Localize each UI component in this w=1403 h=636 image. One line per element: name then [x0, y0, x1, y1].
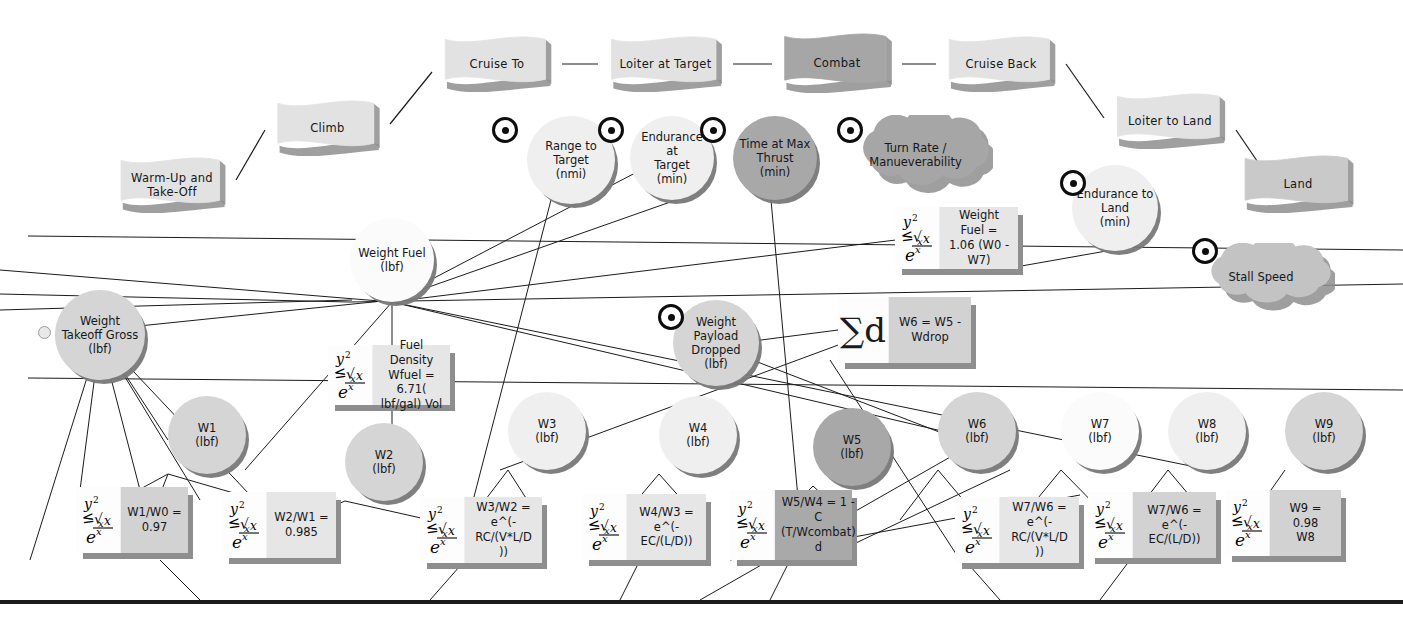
requirement-label: Turn Rate /Manueverability	[859, 141, 971, 170]
node-w6[interactable]: W6(lbf)	[938, 392, 1016, 470]
requirement-target-icon-weight-payload-dropped[interactable]	[658, 304, 684, 330]
formula-icon: y 2 ≤ √ x x e x	[1088, 492, 1133, 558]
svg-text:x: x	[975, 536, 981, 547]
mission-phase-label: Combat	[808, 56, 867, 70]
equation-eq-w7-w6-endurance[interactable]: y 2 ≤ √ x x e x W7/W6 =e^(-EC/(L/D))	[1088, 492, 1216, 558]
mission-phase-cruise-back[interactable]: Cruise Back	[936, 36, 1066, 92]
formula-icon: y 2 ≤ √ x x e x	[955, 497, 1000, 563]
node-w2[interactable]: W2(lbf)	[345, 423, 423, 501]
node-w3[interactable]: W3(lbf)	[508, 392, 586, 470]
mission-phase-combat[interactable]: Combat	[772, 33, 902, 93]
mission-phase-land[interactable]: Land	[1232, 155, 1364, 213]
svg-text:2: 2	[912, 213, 918, 223]
requirement-time-at-max-thrust[interactable]: Time at MaxThrust(min)	[733, 116, 817, 200]
svg-text:x: x	[96, 526, 102, 537]
formula-icon: y 2 ≤ √ x x e x	[420, 497, 465, 563]
equation-eq-weight-fuel[interactable]: y 2 ≤ √ x x e x Weight Fuel =1.06 (W0 -W…	[895, 207, 1018, 269]
equation-eq-w9-w8[interactable]: y 2 ≤ √ x x e x W9 = 0.98W8	[1225, 490, 1341, 556]
mission-phase-warm-up-and-take-off[interactable]: Warm-Up andTake-Off	[108, 157, 236, 213]
requirement-weight-payload-dropped[interactable]: WeightPayloadDropped(lbf)	[673, 300, 759, 386]
svg-text:x: x	[242, 531, 248, 542]
sigma-icon: ∑d	[838, 297, 889, 363]
formula-icon: y 2 ≤ √ x x e x	[76, 487, 121, 553]
equation-text: W7/W6 =e^(-EC/(L/D))	[1133, 492, 1216, 558]
equation-text: W3/W2 =e^(-RC/(V*L/D))	[465, 497, 542, 563]
requirement-label: Stall Speed	[1219, 270, 1304, 284]
node-weight-takeoff-gross[interactable]: WeightTakeoff Gross(lbf)	[55, 290, 145, 380]
svg-text:2: 2	[345, 350, 351, 360]
svg-text:e: e	[1235, 530, 1245, 549]
node-w4[interactable]: W4(lbf)	[659, 396, 737, 474]
node-label: Endurance toLand(min)	[1073, 187, 1158, 229]
svg-text:x: x	[602, 533, 608, 544]
node-w7[interactable]: W7(lbf)	[1061, 392, 1139, 470]
equation-eq-w3-w2[interactable]: y 2 ≤ √ x x e x W3/W2 =e^(-RC/(V*L/D))	[420, 497, 542, 563]
mission-phase-label: Land	[1277, 177, 1318, 191]
equation-text: W6 = W5 -Wdrop	[889, 297, 971, 363]
requirement-target-icon-time-at-max-thrust[interactable]	[700, 117, 726, 143]
equation-eq-w7-w6-range[interactable]: y 2 ≤ √ x x e x W7/W6 =e^(-RC/(V*L/D))	[955, 497, 1079, 563]
svg-text:2: 2	[93, 495, 99, 505]
node-label: WeightPayloadDropped(lbf)	[687, 315, 744, 371]
mission-phase-label: Climb	[304, 121, 350, 135]
svg-text:e: e	[905, 245, 915, 264]
node-label: W6(lbf)	[961, 417, 993, 445]
svg-text:2: 2	[239, 500, 245, 510]
node-weight-fuel[interactable]: Weight Fuel(lbf)	[350, 218, 434, 302]
node-label: Endurance atTarget(min)	[630, 130, 714, 186]
equation-text: W1/W0 =0.97	[121, 487, 188, 553]
svg-text:x: x	[923, 232, 930, 246]
requirement-target-icon-turn-rate-manueverability[interactable]	[837, 117, 863, 143]
equation-eq-w4-w3[interactable]: y 2 ≤ √ x x e x W4/W3 =e^(-EC/(L/D))	[582, 494, 706, 560]
node-label: WeightTakeoff Gross(lbf)	[58, 314, 143, 356]
mission-phase-climb[interactable]: Climb	[265, 100, 390, 156]
svg-text:2: 2	[972, 505, 978, 515]
mission-phase-label: Loiter to Land	[1122, 114, 1218, 128]
requirement-target-icon-range-to-target[interactable]	[492, 117, 518, 143]
equation-eq-fuel-density[interactable]: y 2 ≤ √ x x e x Fuel DensityWfuel = 6.71…	[328, 345, 450, 405]
requirement-turn-rate-manueverability[interactable]: Turn Rate /Manueverability	[848, 115, 983, 195]
equation-text: W2/W1 =0.985	[267, 492, 336, 558]
node-label: W1(lbf)	[191, 421, 223, 449]
node-w9[interactable]: W9(lbf)	[1285, 392, 1363, 470]
equation-eq-w2-w1[interactable]: y 2 ≤ √ x x e x W2/W1 =0.985	[222, 492, 336, 558]
node-label: W2(lbf)	[368, 448, 400, 476]
equation-text: W9 = 0.98W8	[1270, 490, 1341, 556]
equation-eq-w5-w4[interactable]: y 2 ≤ √ x x e x W5/W4 = 1 -C(T/Wcombat)d	[730, 490, 852, 560]
mission-phase-cruise-to[interactable]: Cruise To	[432, 36, 562, 92]
requirement-target-icon-stall-speed[interactable]	[1192, 238, 1218, 264]
svg-text:e: e	[232, 532, 242, 551]
equation-eq-w6-sum[interactable]: ∑dW6 = W5 -Wdrop	[838, 297, 971, 363]
svg-text:x: x	[1245, 529, 1251, 540]
svg-text:2: 2	[437, 505, 443, 515]
formula-icon: y 2 ≤ √ x x e x	[222, 492, 267, 558]
node-w1[interactable]: W1(lbf)	[168, 396, 246, 474]
requirement-target-icon-endurance-at-target[interactable]	[598, 117, 624, 143]
formula-icon: y 2 ≤ √ x x e x	[328, 345, 373, 405]
svg-text:x: x	[750, 531, 756, 542]
equation-text: W5/W4 = 1 -C(T/Wcombat)d	[775, 490, 862, 560]
requirement-target-icon-endurance-to-land[interactable]	[1060, 170, 1086, 196]
node-label: Range toTarget(nmi)	[541, 139, 601, 181]
node-handle-knob[interactable]	[38, 326, 51, 339]
formula-icon: y 2 ≤ √ x x e x	[1225, 490, 1270, 556]
svg-text:2: 2	[599, 502, 605, 512]
node-w8[interactable]: W8(lbf)	[1168, 392, 1246, 470]
node-label: W8(lbf)	[1191, 417, 1223, 445]
node-label: W7(lbf)	[1084, 417, 1116, 445]
svg-text:x: x	[610, 521, 617, 535]
mission-phase-loiter-to-land[interactable]: Loiter to Land	[1104, 93, 1236, 149]
node-w5[interactable]: W5(lbf)	[813, 408, 891, 486]
equation-text: Fuel DensityWfuel = 6.71(lbf/gal) Vol	[373, 345, 450, 405]
svg-text:x: x	[1253, 517, 1260, 531]
mission-phase-loiter-at-target[interactable]: Loiter at Target	[598, 36, 733, 92]
svg-text:x: x	[250, 519, 257, 533]
equation-text: Weight Fuel =1.06 (W0 -W7)	[940, 207, 1018, 269]
equation-text: W7/W6 =e^(-RC/(V*L/D))	[1000, 497, 1079, 563]
svg-text:x: x	[758, 519, 765, 533]
equation-eq-w1-w0[interactable]: y 2 ≤ √ x x e x W1/W0 =0.97	[76, 487, 188, 553]
node-label: W3(lbf)	[531, 417, 563, 445]
mission-phase-label: Cruise To	[464, 57, 531, 71]
node-label: Time at MaxThrust(min)	[736, 137, 815, 179]
svg-text:e: e	[592, 534, 602, 553]
